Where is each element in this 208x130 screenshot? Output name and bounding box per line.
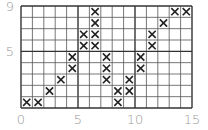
x-mark-icon — [137, 53, 144, 60]
x-mark-icon — [114, 99, 121, 106]
x-mark-icon — [171, 8, 178, 15]
x-mark-icon — [46, 87, 53, 94]
x-mark-icon — [126, 76, 133, 83]
x-mark-icon — [103, 65, 110, 72]
x-mark-icon — [92, 31, 99, 38]
x-tick-label: 0 — [17, 112, 25, 127]
x-mark-icon — [80, 42, 87, 49]
x-mark-icon — [183, 8, 190, 15]
x-mark-icon — [92, 42, 99, 49]
x-mark-icon — [35, 99, 42, 106]
x-tick-label: 15 — [184, 112, 201, 127]
x-mark-icon — [92, 19, 99, 26]
y-tick-label: 9 — [6, 0, 14, 14]
x-mark-icon — [69, 65, 76, 72]
x-mark-icon — [92, 8, 99, 15]
x-mark-grid-chart: 05101559 — [0, 0, 208, 130]
x-mark-icon — [160, 19, 167, 26]
x-mark-icon — [103, 53, 110, 60]
x-mark-icon — [137, 65, 144, 72]
x-markers — [23, 8, 190, 106]
x-mark-icon — [114, 87, 121, 94]
x-mark-icon — [69, 53, 76, 60]
x-tick-label: 5 — [74, 112, 82, 127]
x-tick-label: 10 — [127, 112, 144, 127]
x-mark-icon — [103, 76, 110, 83]
x-mark-icon — [57, 76, 64, 83]
x-mark-icon — [149, 31, 156, 38]
x-mark-icon — [149, 42, 156, 49]
x-mark-icon — [80, 31, 87, 38]
x-mark-icon — [126, 87, 133, 94]
x-mark-icon — [23, 99, 30, 106]
y-tick-label: 5 — [6, 44, 14, 59]
